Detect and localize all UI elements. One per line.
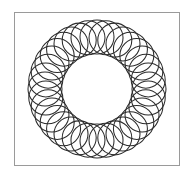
- rosette-circle: [28, 72, 62, 106]
- rosette-circle: [54, 117, 88, 151]
- rosette-circle: [35, 98, 69, 132]
- spirograph-rosette: Spirograph Rosette Black line-art rosett…: [0, 0, 193, 180]
- rosette-circle: [125, 46, 159, 80]
- rosette-circle: [54, 27, 88, 61]
- rosette-circle: [106, 27, 140, 61]
- rosette-circle: [35, 46, 69, 80]
- rosette-circle: [132, 72, 166, 106]
- rosette-circle: [80, 124, 114, 158]
- rosette-circle: [125, 98, 159, 132]
- rosette-circle: [80, 20, 114, 54]
- rosette-circle: [106, 117, 140, 151]
- figure-root: Spirograph Rosette Black line-art rosett…: [0, 0, 193, 180]
- rosette-circle-group: [28, 20, 166, 158]
